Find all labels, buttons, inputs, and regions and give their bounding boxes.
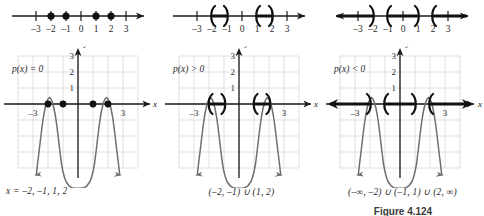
graph-negative: x –3 3 1 2 3: [322, 46, 483, 188]
y-tick-labels: 1 2 3: [392, 51, 397, 93]
x-axis-label: x: [313, 99, 318, 109]
nl-tick-label: 3: [124, 24, 129, 34]
panel-caption-zero: x = –2, –1, 1, 2: [0, 186, 167, 196]
condition-label-group: p(x) < 0: [333, 64, 365, 75]
nl-tick-label: –2: [206, 24, 217, 34]
figure-sheet: –3 –2 –1 0 1 2 3: [0, 0, 484, 216]
axis-labels: x: [313, 99, 318, 109]
graph-svg-negative: x –3 3 1 2 3: [322, 46, 484, 188]
nl-tick-label: –2: [367, 24, 378, 34]
number-line-labels: –3 –2 –1 0 1 2 3: [30, 24, 128, 34]
panel-zero: –3 –2 –1 0 1 2 3: [0, 0, 161, 216]
interval-markers: [338, 6, 466, 26]
nl-tick-label: 0: [79, 24, 84, 34]
y-axis: [236, 48, 243, 178]
y-axis-letter: y: [244, 46, 249, 48]
y-tick-label: 1: [392, 83, 397, 93]
y-tick-label: 3: [231, 51, 236, 61]
y-tick-labels: 1 2 3: [70, 51, 75, 93]
nl-tick-label: –1: [382, 24, 393, 34]
nl-tick-label: 2: [431, 24, 436, 34]
nl-tick-label: 3: [285, 24, 290, 34]
x-axis-label: x: [477, 99, 482, 109]
condition-label: p(x) > 0: [172, 64, 204, 75]
nl-tick-label: –3: [191, 24, 202, 34]
y-axis-letter: y: [405, 46, 410, 48]
x-tick-label: 3: [121, 108, 126, 118]
graph-svg-positive: x –3 3 1 2 3: [161, 46, 322, 188]
nl-tick-label: 2: [270, 24, 275, 34]
y-axis: [75, 48, 82, 178]
x-axis: [4, 101, 150, 108]
x-axis: [165, 101, 311, 108]
condition-label-group: p(x) > 0: [172, 64, 204, 75]
y-axis-label: y: [83, 46, 88, 48]
number-line-axis: [12, 12, 144, 19]
number-line-negative: –3 –2 –1 0 1 2 3: [322, 0, 483, 46]
y-tick-labels: 1 2 3: [231, 51, 236, 93]
condition-label: p(x) < 0: [333, 64, 365, 75]
number-line-svg-negative: –3 –2 –1 0 1 2 3: [322, 0, 484, 46]
nl-tick-label: 1: [94, 24, 99, 34]
y-tick-label: 2: [70, 67, 75, 77]
axis-labels: x: [152, 99, 157, 109]
y-axis: [397, 48, 404, 178]
number-line-labels: –3 –2 –1 0 1 2 3: [191, 24, 289, 34]
nl-tick-label: 0: [240, 24, 245, 34]
y-axis-label: y: [405, 46, 410, 48]
nl-tick-label: –1: [221, 24, 232, 34]
nl-tick-label: 0: [401, 24, 406, 34]
graph-svg-zero: x –3 3 1 2 3: [0, 46, 161, 188]
y-tick-label: 2: [231, 67, 236, 77]
nl-tick-label: 1: [416, 24, 421, 34]
graph-zero: x –3 3 1 2 3: [0, 46, 161, 188]
graph-positive: x –3 3 1 2 3: [161, 46, 322, 188]
number-line-positive: –3 –2 –1 0 1 2 3: [161, 0, 322, 46]
y-tick-label: 3: [70, 51, 75, 61]
nl-tick-label: 2: [109, 24, 114, 34]
y-tick-label: 1: [231, 83, 236, 93]
number-line-svg-zero: –3 –2 –1 0 1 2 3: [0, 0, 161, 46]
nl-tick-label: –3: [30, 24, 41, 34]
y-axis-label: y: [244, 46, 249, 48]
nl-tick-label: –2: [45, 24, 56, 34]
y-tick-label: 3: [392, 51, 397, 61]
number-line-axis: [173, 12, 305, 19]
x-tick-label: 3: [443, 108, 448, 118]
x-tick-label: 3: [282, 108, 287, 118]
panel-negative: –3 –2 –1 0 1 2 3: [322, 0, 483, 216]
y-tick-label: 2: [392, 67, 397, 77]
condition-label-group: p(x) = 0: [11, 64, 43, 75]
figure-caption: Figure 4.124: [322, 206, 484, 216]
panel-positive: –3 –2 –1 0 1 2 3: [161, 0, 322, 216]
x-axis-label: x: [152, 99, 157, 109]
condition-label: p(x) = 0: [11, 64, 43, 75]
y-tick-label: 1: [70, 83, 75, 93]
y-axis-letter: y: [83, 46, 88, 48]
x-tick-label: –3: [28, 108, 39, 118]
nl-tick-label: 1: [255, 24, 260, 34]
x-tick-label: –3: [189, 108, 200, 118]
axis-labels: x: [477, 99, 482, 109]
x-tick-label: –3: [350, 108, 361, 118]
panel-caption-negative: (–∞, –2) ∪ (–1, 1) ∪ (2, ∞): [322, 186, 483, 197]
panel-caption-positive: (–2, –1) ∪ (1, 2): [161, 186, 322, 197]
nl-tick-label: –1: [60, 24, 71, 34]
nl-tick-label: –3: [352, 24, 363, 34]
number-line-svg-positive: –3 –2 –1 0 1 2 3: [161, 0, 322, 46]
number-line-zero: –3 –2 –1 0 1 2 3: [0, 0, 161, 46]
nl-tick-label: 3: [446, 24, 451, 34]
